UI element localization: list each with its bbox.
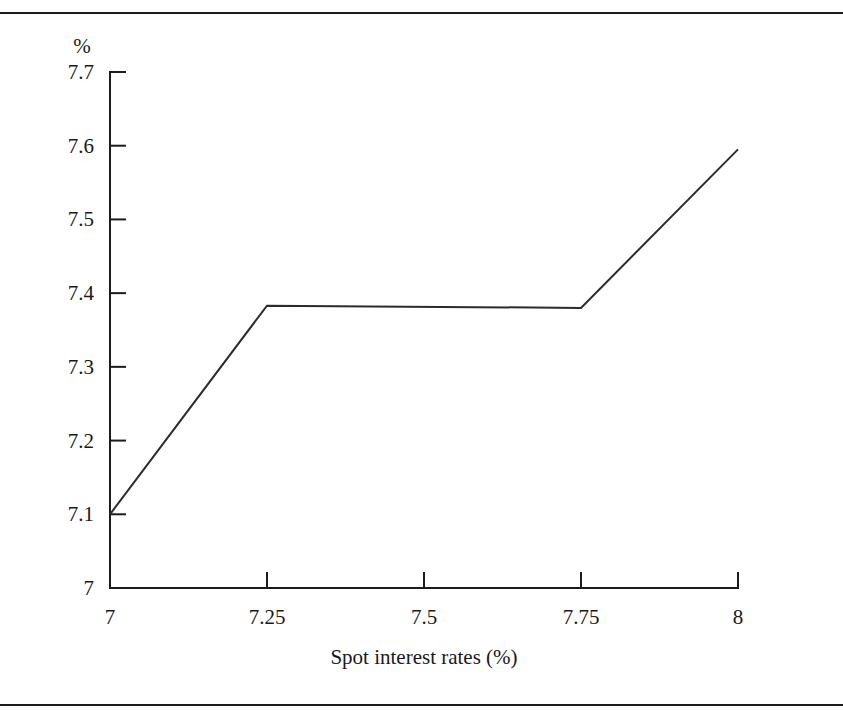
figure-container: % 77.17.27.37.47.57.67.7 77.257.57.758 S…: [0, 0, 843, 722]
x-axis-tick-label: 7.5: [411, 607, 437, 628]
x-axis-tick-label: 7.25: [249, 607, 286, 628]
x-axis-tick-label: 7: [105, 607, 116, 628]
y-axis-tick-label: 7.4: [0, 283, 94, 304]
y-axis-tick-label: 7.6: [0, 135, 94, 156]
data-series-group: [110, 149, 738, 514]
ticks-group: [110, 72, 738, 588]
y-axis-unit-label: %: [73, 36, 91, 57]
y-axis-tick-label: 7.2: [0, 430, 94, 451]
data-line-portfolio-value: [110, 149, 738, 514]
y-axis-tick-label: 7.3: [0, 356, 94, 377]
y-axis-tick-label: 7.5: [0, 209, 94, 230]
y-axis-tick-label: 7.7: [0, 62, 94, 83]
axes-group: [110, 72, 738, 588]
plot-area: % 77.17.27.37.47.57.67.7 77.257.57.758 S…: [0, 0, 843, 722]
y-axis-tick-label: 7: [0, 578, 94, 599]
x-axis-tick-label: 8: [733, 607, 744, 628]
axis-lines: [110, 72, 738, 588]
y-axis-tick-label: 7.1: [0, 504, 94, 525]
x-axis-tick-label: 7.75: [563, 607, 600, 628]
x-axis-title: Spot interest rates (%): [330, 645, 517, 669]
